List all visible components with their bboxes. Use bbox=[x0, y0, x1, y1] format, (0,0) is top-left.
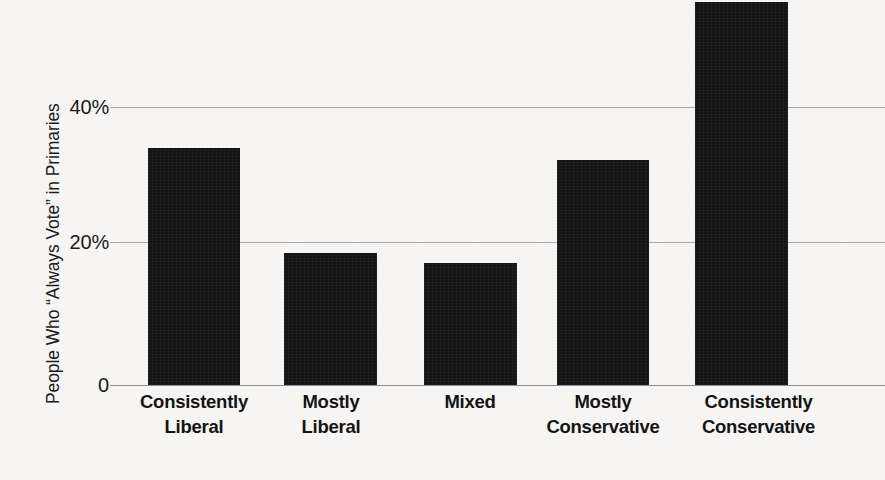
x-label-mixed: Mixed bbox=[410, 390, 530, 415]
x-label-line1: Mixed bbox=[444, 391, 495, 412]
y-tick-label-40: 40% bbox=[53, 96, 109, 119]
bar-consistently-conservative bbox=[695, 2, 788, 385]
x-label-mostly-conservative: Mostly Conservative bbox=[527, 390, 679, 439]
x-label-consistently-conservative: Consistently Conservative bbox=[676, 390, 841, 439]
x-label-line2: Liberal bbox=[268, 415, 394, 440]
bar-consistently-liberal bbox=[148, 148, 240, 385]
x-label-line2: Conservative bbox=[527, 415, 679, 440]
x-label-line1: Mostly bbox=[574, 391, 631, 412]
x-label-line2: Conservative bbox=[676, 415, 841, 440]
x-axis-labels: Consistently Liberal Mostly Liberal Mixe… bbox=[60, 390, 871, 480]
bar-mostly-conservative bbox=[557, 160, 649, 385]
bar-mixed bbox=[424, 263, 517, 385]
x-label-line1: Consistently bbox=[704, 391, 812, 412]
x-label-line1: Mostly bbox=[302, 391, 359, 412]
x-label-mostly-liberal: Mostly Liberal bbox=[268, 390, 394, 439]
x-label-consistently-liberal: Consistently Liberal bbox=[118, 390, 270, 439]
y-tick-label-20: 20% bbox=[53, 231, 109, 254]
x-label-line1: Consistently bbox=[140, 391, 248, 412]
x-label-line2: Liberal bbox=[118, 415, 270, 440]
axis-baseline bbox=[110, 385, 885, 386]
plot-area: 40% 20% 0 bbox=[60, 0, 871, 386]
bar-mostly-liberal bbox=[284, 253, 377, 385]
